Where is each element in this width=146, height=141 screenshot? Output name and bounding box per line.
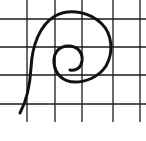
spiral-curve bbox=[20, 12, 111, 113]
spiral-grid-diagram bbox=[0, 0, 146, 141]
grid bbox=[0, 0, 146, 122]
